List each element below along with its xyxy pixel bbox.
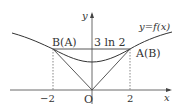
y-axis-arrow-icon xyxy=(90,12,94,18)
point-a-label: A(B) xyxy=(136,48,161,59)
function-diagram: y y=f(x) B(A) 3 ln 2 A(B) −2 O 2 x xyxy=(0,0,182,111)
origin-label: O xyxy=(84,94,93,105)
curve-label: y=f(x) xyxy=(139,22,170,32)
segment-length-label: 3 ln 2 xyxy=(94,37,126,48)
tick-label-2: 2 xyxy=(127,94,133,104)
segment-oa xyxy=(92,49,130,90)
tick-label-neg2: −2 xyxy=(40,94,55,104)
point-b-label: B(A) xyxy=(52,37,77,48)
segment-ob xyxy=(53,49,92,90)
x-axis-label: x xyxy=(164,93,170,103)
y-axis-label: y xyxy=(82,11,88,21)
